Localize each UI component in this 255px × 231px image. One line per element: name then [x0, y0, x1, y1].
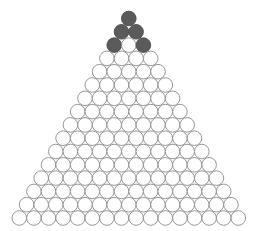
circle-light — [12, 211, 27, 226]
circle-light — [85, 131, 100, 146]
figure-container — [0, 0, 255, 231]
circles-layer — [12, 11, 246, 225]
circle-light — [100, 158, 115, 173]
circle-light — [41, 184, 56, 199]
circle-light — [129, 211, 144, 226]
circle-light — [41, 211, 56, 226]
circle-light — [19, 197, 34, 212]
circle-light — [49, 171, 64, 186]
circle-light — [70, 211, 85, 226]
circle-light — [122, 197, 137, 212]
circle-light — [63, 171, 78, 186]
circle-light — [70, 131, 85, 146]
circle-light — [34, 171, 49, 186]
circle-light — [114, 51, 129, 66]
circle-light — [100, 211, 115, 226]
circle-light — [70, 158, 85, 173]
circle-light — [202, 211, 217, 226]
circle-light — [107, 64, 122, 79]
circle-light — [187, 211, 202, 226]
circle-light — [202, 158, 217, 173]
circle-light — [143, 51, 158, 66]
circle-light — [180, 171, 195, 186]
circle-light — [85, 104, 100, 119]
circle-light — [151, 64, 166, 79]
circle-light — [165, 197, 180, 212]
circle-light — [136, 91, 151, 106]
circle-light — [158, 158, 173, 173]
circle-light — [63, 197, 78, 212]
circle-light — [100, 104, 115, 119]
circle-light — [100, 51, 115, 66]
circle-light — [107, 91, 122, 106]
circle-light — [70, 184, 85, 199]
triangle-packing-diagram — [0, 0, 255, 231]
circle-light — [158, 184, 173, 199]
circle-light — [56, 158, 71, 173]
circle-light — [136, 197, 151, 212]
circle-light — [136, 171, 151, 186]
circle-light — [216, 211, 231, 226]
circle-light — [158, 211, 173, 226]
circle-light — [122, 38, 137, 53]
circle-light — [151, 91, 166, 106]
circle-light — [114, 184, 129, 199]
circle-light — [224, 197, 239, 212]
circle-light — [187, 158, 202, 173]
circle-light — [165, 91, 180, 106]
circle-light — [195, 171, 210, 186]
circle-dark — [129, 25, 144, 40]
circle-light — [114, 158, 129, 173]
circle-light — [107, 171, 122, 186]
circle-light — [114, 211, 129, 226]
circle-light — [114, 104, 129, 119]
circle-light — [165, 118, 180, 133]
circle-light — [114, 78, 129, 93]
circle-dark — [107, 38, 122, 53]
circle-light — [78, 171, 93, 186]
circle-light — [78, 118, 93, 133]
circle-light — [231, 211, 246, 226]
circle-light — [49, 144, 64, 159]
circle-light — [27, 211, 42, 226]
circle-light — [129, 104, 144, 119]
circle-light — [92, 197, 107, 212]
circle-light — [107, 144, 122, 159]
circle-light — [107, 197, 122, 212]
circle-light — [92, 171, 107, 186]
circle-light — [187, 184, 202, 199]
circle-light — [143, 184, 158, 199]
circle-light — [187, 131, 202, 146]
circle-light — [143, 78, 158, 93]
circle-light — [143, 104, 158, 119]
circle-light — [173, 131, 188, 146]
circle-light — [92, 91, 107, 106]
circle-light — [129, 78, 144, 93]
circle-light — [92, 64, 107, 79]
circle-light — [78, 91, 93, 106]
circle-light — [34, 197, 49, 212]
circle-light — [63, 144, 78, 159]
circle-light — [195, 197, 210, 212]
circle-light — [158, 131, 173, 146]
circle-light — [85, 78, 100, 93]
circle-light — [209, 197, 224, 212]
circle-light — [114, 131, 129, 146]
circle-light — [173, 158, 188, 173]
circle-light — [49, 197, 64, 212]
circle-light — [173, 184, 188, 199]
circle-light — [202, 184, 217, 199]
circle-light — [136, 64, 151, 79]
circle-light — [180, 118, 195, 133]
circle-light — [85, 158, 100, 173]
circle-light — [129, 158, 144, 173]
circle-light — [100, 184, 115, 199]
circle-light — [165, 144, 180, 159]
circle-light — [129, 184, 144, 199]
circle-light — [56, 131, 71, 146]
circle-light — [151, 144, 166, 159]
circle-light — [100, 78, 115, 93]
circle-light — [85, 211, 100, 226]
circle-light — [78, 197, 93, 212]
circle-light — [122, 118, 137, 133]
